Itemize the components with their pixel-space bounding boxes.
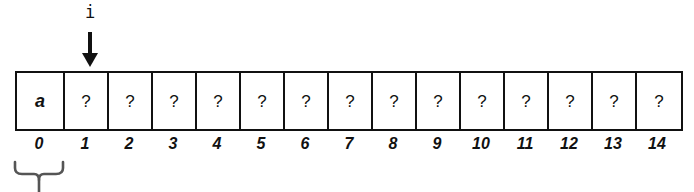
array-index-label: 10 xyxy=(459,133,503,155)
array-index-label: 4 xyxy=(195,133,239,155)
array-cell-value: ? xyxy=(345,93,354,110)
array-cell[interactable]: ? xyxy=(505,73,549,129)
array-cell[interactable]: ? xyxy=(109,73,153,129)
array-cell-value: ? xyxy=(565,93,574,110)
array-cell[interactable]: a xyxy=(17,73,65,129)
array-cell[interactable]: ? xyxy=(373,73,417,129)
array-cell-value: ? xyxy=(521,93,530,110)
array-cell[interactable]: ? xyxy=(197,73,241,129)
array-cell-value: ? xyxy=(213,93,222,110)
array-cell-value: a xyxy=(35,93,45,110)
array-index-label: 1 xyxy=(63,133,107,155)
array-cell-value: ? xyxy=(257,93,266,110)
array-index-diagram: i a ? ? ? ? ? ? ? ? xyxy=(0,0,694,192)
array-index-label: 11 xyxy=(503,133,547,155)
array-index-label: 9 xyxy=(415,133,459,155)
array-cell[interactable]: ? xyxy=(285,73,329,129)
array-cell[interactable]: ? xyxy=(153,73,197,129)
array-cell-value: ? xyxy=(81,93,90,110)
array-box: a ? ? ? ? ? ? ? ? ? ? ? xyxy=(15,71,683,131)
array-index-label: 2 xyxy=(107,133,151,155)
array-index-label: 3 xyxy=(151,133,195,155)
curly-brace-down-icon xyxy=(13,160,65,192)
array-cell[interactable]: ? xyxy=(241,73,285,129)
array-index-label: 8 xyxy=(371,133,415,155)
array-cell-value: ? xyxy=(125,93,134,110)
array-index-label: 12 xyxy=(547,133,591,155)
array-cell[interactable]: ? xyxy=(549,73,593,129)
array-cell[interactable]: ? xyxy=(417,73,461,129)
array-cell-value: ? xyxy=(477,93,486,110)
array-index-label: 14 xyxy=(635,133,679,155)
index-pointer: i xyxy=(67,2,113,70)
array-index-row: 0 1 2 3 4 5 6 7 8 9 10 11 12 13 14 xyxy=(15,133,679,155)
array-index-label: 7 xyxy=(327,133,371,155)
array-index-label: 13 xyxy=(591,133,635,155)
down-arrow-icon xyxy=(67,32,113,68)
array-cell[interactable]: ? xyxy=(461,73,505,129)
array-cell[interactable]: ? xyxy=(65,73,109,129)
array-cell-value: ? xyxy=(609,93,618,110)
array-cell-value: ? xyxy=(301,93,310,110)
array-index-label: 6 xyxy=(283,133,327,155)
array-index-label: 5 xyxy=(239,133,283,155)
array-cell-value: ? xyxy=(654,93,663,110)
array-cell-value: ? xyxy=(389,93,398,110)
array-cell[interactable]: ? xyxy=(637,73,681,129)
array-index-label: 0 xyxy=(15,133,63,155)
array-cell-value: ? xyxy=(433,93,442,110)
array-cell[interactable]: ? xyxy=(593,73,637,129)
array-cell[interactable]: ? xyxy=(329,73,373,129)
pointer-label-i: i xyxy=(67,2,113,22)
array-cell-value: ? xyxy=(169,93,178,110)
